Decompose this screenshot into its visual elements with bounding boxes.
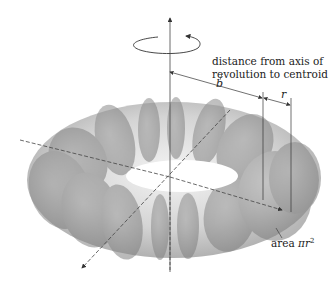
area-label: area πr2 [271, 237, 315, 249]
distance-label: distance from axis of revolution to cent… [212, 55, 328, 80]
rotation-arrow-ellipse [134, 36, 201, 54]
area-word: area [271, 237, 295, 249]
area-exponent: 2 [310, 237, 314, 245]
distance-label-line1: distance from axis of [212, 55, 328, 68]
area-expression: πr [298, 237, 310, 249]
label-b: b [216, 77, 223, 90]
label-r: r [281, 88, 286, 101]
distance-label-line2: revolution to centroid [212, 68, 328, 81]
